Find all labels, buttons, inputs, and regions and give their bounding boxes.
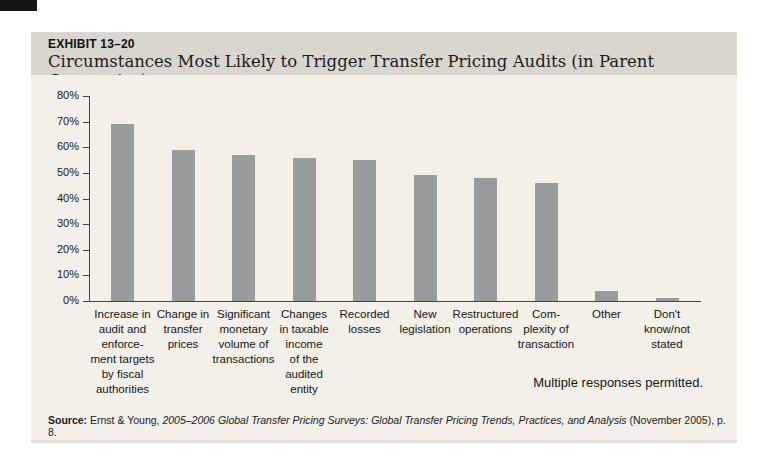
- bar: [232, 155, 255, 301]
- y-tick-mark: [83, 199, 89, 200]
- source-publication-title: 2005–2006 Global Transfer Pricing Survey…: [162, 414, 626, 426]
- chart-note: Multiple responses permitted.: [533, 375, 703, 390]
- y-tick-mark: [83, 122, 89, 123]
- source-prefix: Source:: [48, 414, 87, 426]
- y-tick-label: 20%: [31, 243, 79, 255]
- bar: [474, 178, 497, 301]
- y-tick-label: 10%: [31, 268, 79, 280]
- y-tick-label: 40%: [31, 192, 79, 204]
- exhibit-label: EXHIBIT 13–20: [48, 37, 737, 51]
- source-text-1: Ernst & Young,: [87, 414, 162, 426]
- source-line: Source: Ernst & Young, 2005–2006 Global …: [48, 414, 727, 438]
- page-edge-tab: [0, 0, 37, 11]
- y-tick-mark: [83, 224, 89, 225]
- y-axis-line: [89, 96, 90, 301]
- exhibit-body: 0%10%20%30%40%50%60%70%80%Increase in au…: [31, 75, 737, 443]
- bar: [111, 124, 134, 301]
- bar: [535, 183, 558, 301]
- category-label: Don't know/not stated: [622, 307, 712, 352]
- y-tick-mark: [83, 96, 89, 97]
- y-tick-mark: [83, 301, 89, 302]
- bar: [656, 298, 679, 301]
- y-tick-label: 50%: [31, 166, 79, 178]
- x-axis-line: [89, 301, 701, 302]
- bar: [414, 175, 437, 301]
- y-tick-mark: [83, 250, 89, 251]
- y-tick-mark: [83, 275, 89, 276]
- exhibit-header: EXHIBIT 13–20 Circumstances Most Likely …: [31, 32, 737, 75]
- y-tick-label: 80%: [31, 89, 79, 101]
- y-tick-label: 0%: [31, 294, 79, 306]
- y-tick-label: 30%: [31, 217, 79, 229]
- bar: [172, 150, 195, 301]
- exhibit-panel: EXHIBIT 13–20 Circumstances Most Likely …: [31, 32, 737, 443]
- y-tick-label: 70%: [31, 115, 79, 127]
- y-tick-mark: [83, 173, 89, 174]
- y-tick-label: 60%: [31, 140, 79, 152]
- bar-chart: 0%10%20%30%40%50%60%70%80%Increase in au…: [31, 75, 737, 415]
- bar: [595, 291, 618, 301]
- bar: [353, 160, 376, 301]
- bar: [293, 158, 316, 302]
- y-tick-mark: [83, 147, 89, 148]
